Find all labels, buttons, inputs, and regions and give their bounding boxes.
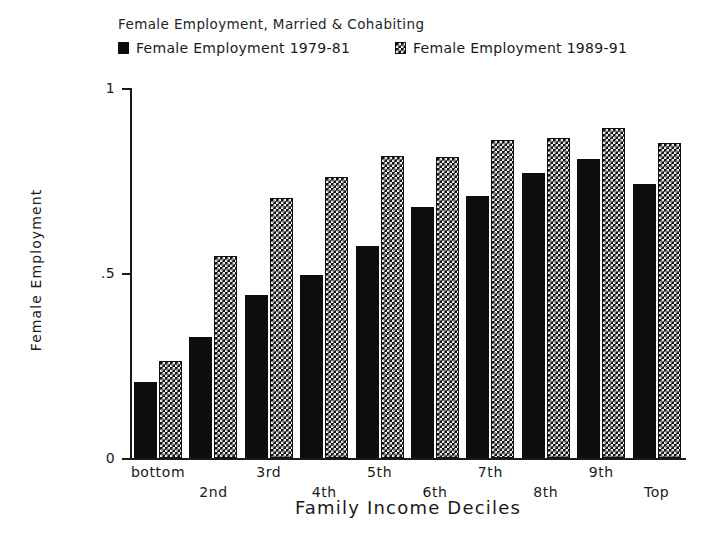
x-tick-label: 3rd [256,464,281,480]
bar [522,173,545,458]
bar [325,177,348,458]
plot-area [131,88,686,458]
legend-label-1979-81: Female Employment 1979-81 [136,40,350,56]
bar [189,337,212,458]
bar [134,382,157,458]
bar-chart-figure: Female Employment, Married & Cohabiting … [0,0,727,538]
x-tick-label: 8th [533,484,558,500]
bar [547,138,570,458]
bar-group [245,88,293,458]
checkerboard-square-icon [395,42,406,54]
y-tick-label-0point5: .5 [101,265,115,281]
bar [658,143,681,458]
x-tick-label: bottom [131,464,185,480]
bar [356,246,379,458]
bar [436,157,459,458]
legend-entry-1989-91: Female Employment 1989-91 [395,40,627,56]
bar-group [522,88,570,458]
legend-label-1989-91: Female Employment 1989-91 [413,40,627,56]
bar-group [189,88,237,458]
bar [491,140,514,458]
bar [214,256,237,458]
y-tick-label-1: 1 [106,80,115,96]
y-axis-title: Female Employment [28,170,44,370]
bar [411,207,434,458]
legend-entry-1979-81: Female Employment 1979-81 [118,40,350,56]
x-tick-label: 7th [478,464,503,480]
y-tick-label-0-wrap: 0 [70,450,115,466]
x-tick-label: 9th [589,464,614,480]
x-axis-title: Family Income Deciles [130,497,686,518]
bar [245,295,268,458]
x-tick-label: Top [644,484,669,500]
y-tick-mark-1 [122,88,130,90]
chart-legend: Female Employment 1979-81 Female Employm… [118,40,627,58]
y-tick-mark-0 [122,458,130,460]
x-tick-label: 5th [367,464,392,480]
x-axis-line [130,458,686,460]
bar [466,196,489,458]
bar-group [577,88,625,458]
bar-group [300,88,348,458]
x-tick-label: 4th [312,484,337,500]
bar-group [356,88,404,458]
y-tick-mark-0point5 [122,273,130,275]
bar-group [633,88,681,458]
bar-group [411,88,459,458]
bar [381,156,404,458]
bar [270,198,293,458]
y-tick-label-0: 0 [106,450,115,466]
bar [577,159,600,458]
bar-group [134,88,182,458]
bar [300,275,323,458]
x-tick-label: 6th [422,484,447,500]
bar [602,128,625,458]
bar [633,184,656,458]
chart-title: Female Employment, Married & Cohabiting [118,16,424,32]
y-tick-label-1-wrap: 1 [70,80,115,96]
x-tick-label: 2nd [199,484,227,500]
bar-group [466,88,514,458]
bar [159,361,182,458]
solid-square-icon [118,42,129,54]
y-tick-label-0point5-wrap: .5 [70,265,115,281]
